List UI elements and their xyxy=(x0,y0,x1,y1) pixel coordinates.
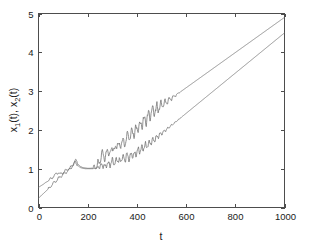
y-tick-label: 1 xyxy=(28,164,33,175)
y-tick-label: 2 xyxy=(28,125,33,136)
x-axis-ticks xyxy=(40,14,286,208)
x-tick-label: 1000 xyxy=(275,211,296,222)
x-tick-label: 200 xyxy=(81,211,97,222)
figure-canvas: 02004006008001000 012345 t x1(t), x2(t) xyxy=(0,0,310,245)
x-tick-label: 400 xyxy=(130,211,146,222)
data-series-group xyxy=(39,18,285,199)
x-axis-tick-labels: 02004006008001000 xyxy=(37,211,296,222)
y-axis-title: x1(t), x2(t) xyxy=(7,88,22,133)
y-axis-tick-labels: 012345 xyxy=(28,9,33,214)
x-tick-label: 600 xyxy=(179,211,195,222)
y-tick-label: 3 xyxy=(28,86,33,97)
svg-text:x1(t), x2(t): x1(t), x2(t) xyxy=(7,88,22,133)
y-axis-title-mid: (t), x xyxy=(7,101,19,123)
chart-plot: 02004006008001000 012345 t x1(t), x2(t) xyxy=(0,0,310,245)
x-tick-label: 800 xyxy=(228,211,244,222)
y-tick-label: 4 xyxy=(28,47,33,58)
y-tick-label: 5 xyxy=(28,9,33,20)
data-series-2 xyxy=(39,33,285,198)
x-axis-title: t xyxy=(160,230,163,242)
x-tick-label: 0 xyxy=(37,211,42,222)
axes-box xyxy=(39,14,285,208)
y-axis-title-end: (t) xyxy=(7,88,19,98)
y-tick-label: 0 xyxy=(28,203,33,214)
